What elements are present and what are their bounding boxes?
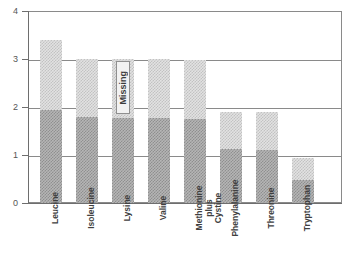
category-label-isoleucine: Isoleucine	[76, 206, 98, 218]
bar-segment-upper	[40, 40, 62, 111]
y-tick-0	[22, 203, 28, 204]
y-tick-label-1: 1	[0, 151, 18, 160]
category-label-text: Isoleucine	[87, 187, 97, 229]
bar-segment-lower	[148, 118, 170, 203]
category-labels: LeucineIsoleucineLysineValineMethioninep…	[0, 206, 351, 280]
category-label-text: Phenylalanine	[231, 179, 241, 236]
category-label-text: Valine	[159, 196, 169, 221]
category-label-text: Leucine	[51, 192, 61, 224]
category-label-tryptophan: Tryptophan	[292, 206, 314, 218]
y-tick-label-4: 4	[0, 7, 18, 16]
y-tick-label-2: 2	[0, 103, 18, 112]
category-label-text: Tryptophan	[303, 185, 313, 231]
bar-valine[interactable]	[148, 59, 170, 203]
bar-chart: 4 3 2 1 0 Missing LeucineIsoleucineLysin…	[0, 0, 351, 280]
bar-segment-upper	[220, 112, 242, 149]
bar-segment-lower	[112, 118, 134, 203]
bar-segment-upper	[76, 59, 98, 117]
y-tick-3	[22, 59, 28, 60]
y-tick-1	[22, 155, 28, 156]
category-label-text: Lysine	[123, 195, 133, 222]
bar-methionine-plus-cystine[interactable]	[184, 60, 206, 203]
bar-leucine[interactable]	[40, 40, 62, 203]
missing-annotation: Missing	[116, 61, 130, 114]
bar-segment-upper	[256, 112, 278, 150]
bar-isoleucine[interactable]	[76, 59, 98, 203]
bar-segment-lower	[40, 110, 62, 203]
y-axis-line	[28, 11, 29, 204]
category-label-methionine-plus-cystine: Methionineplus Cystine	[184, 206, 206, 237]
bar-segment-upper	[184, 60, 206, 119]
y-tick-2	[22, 107, 28, 108]
category-label-text: Threonine	[267, 187, 277, 228]
bar-segment-upper	[292, 158, 314, 180]
bar-segment-upper	[148, 59, 170, 118]
x-axis-line	[28, 203, 342, 204]
y-tick-4	[22, 11, 28, 12]
y-tick-label-3: 3	[0, 55, 18, 64]
category-label-valine: Valine	[148, 206, 170, 218]
category-label-leucine: Leucine	[40, 206, 62, 218]
category-label-phenylalanine: Phenylalanine	[220, 206, 242, 218]
category-label-lysine: Lysine	[112, 206, 134, 218]
missing-annotation-text: Missing	[118, 71, 128, 105]
category-label-threonine: Threonine	[256, 206, 278, 218]
